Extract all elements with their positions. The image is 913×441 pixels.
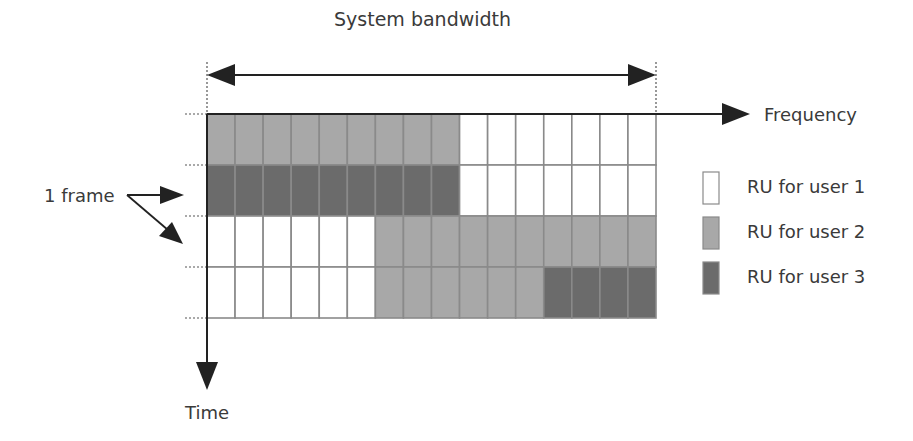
legend-swatches bbox=[703, 172, 719, 294]
ru-cell-user2 bbox=[432, 267, 460, 318]
ru-cell-user2 bbox=[572, 216, 600, 267]
ru-cell-user1 bbox=[460, 114, 488, 165]
ru-cell-user1 bbox=[319, 216, 347, 267]
ru-cell-user3 bbox=[403, 165, 431, 216]
ru-cell-user2 bbox=[235, 114, 263, 165]
ru-cell-user3 bbox=[544, 267, 572, 318]
ru-cell-user2 bbox=[516, 267, 544, 318]
ru-cell-user1 bbox=[347, 267, 375, 318]
ru-cell-user2 bbox=[600, 216, 628, 267]
frame-label: 1 frame bbox=[44, 185, 115, 206]
ru-cell-user3 bbox=[207, 165, 235, 216]
ru-cell-user1 bbox=[291, 216, 319, 267]
ru-cell-user1 bbox=[460, 165, 488, 216]
ru-cell-user1 bbox=[235, 216, 263, 267]
ru-cell-user2 bbox=[375, 114, 403, 165]
ru-cell-user3 bbox=[628, 267, 656, 318]
ru-cell-user1 bbox=[572, 114, 600, 165]
ru-cell-user2 bbox=[403, 216, 431, 267]
ru-cell-user2 bbox=[263, 114, 291, 165]
ru-cell-user2 bbox=[516, 216, 544, 267]
ru-cell-user1 bbox=[628, 114, 656, 165]
legend-swatch-user1 bbox=[703, 172, 719, 204]
ru-cell-user3 bbox=[375, 165, 403, 216]
ru-cell-user1 bbox=[544, 114, 572, 165]
ru-cell-user2 bbox=[460, 267, 488, 318]
ru-cell-user3 bbox=[319, 165, 347, 216]
ru-cell-user2 bbox=[628, 216, 656, 267]
ru-cell-user2 bbox=[319, 114, 347, 165]
diagram-title: System bandwidth bbox=[334, 8, 511, 30]
legend-label-user3: RU for user 3 bbox=[747, 266, 865, 287]
legend-label-user2: RU for user 2 bbox=[747, 221, 865, 242]
ru-cell-user2 bbox=[432, 114, 460, 165]
legend-label-user1: RU for user 1 bbox=[747, 176, 865, 197]
ru-cell-user3 bbox=[263, 165, 291, 216]
ru-cell-user2 bbox=[403, 114, 431, 165]
ru-cell-user2 bbox=[488, 267, 516, 318]
resource-unit-grid bbox=[207, 114, 656, 318]
ru-cell-user1 bbox=[291, 267, 319, 318]
ru-cell-user2 bbox=[291, 114, 319, 165]
ru-cell-user1 bbox=[600, 165, 628, 216]
ru-cell-user1 bbox=[263, 216, 291, 267]
ru-cell-user1 bbox=[488, 165, 516, 216]
frequency-axis-label: Frequency bbox=[764, 104, 857, 125]
ru-cell-user1 bbox=[235, 267, 263, 318]
ru-cell-user2 bbox=[403, 267, 431, 318]
ru-cell-user2 bbox=[488, 216, 516, 267]
ru-cell-user1 bbox=[207, 216, 235, 267]
ru-cell-user3 bbox=[600, 267, 628, 318]
time-axis-label: Time bbox=[185, 402, 229, 423]
ru-cell-user1 bbox=[347, 216, 375, 267]
ru-cell-user3 bbox=[291, 165, 319, 216]
ru-cell-user2 bbox=[460, 216, 488, 267]
ru-cell-user2 bbox=[544, 216, 572, 267]
ru-cell-user3 bbox=[347, 165, 375, 216]
ru-cell-user1 bbox=[207, 267, 235, 318]
ru-cell-user2 bbox=[375, 216, 403, 267]
legend-swatch-user2 bbox=[703, 217, 719, 249]
ru-cell-user1 bbox=[516, 165, 544, 216]
bandwidth-arrow bbox=[207, 64, 656, 86]
ru-cell-user1 bbox=[628, 165, 656, 216]
ru-cell-user1 bbox=[544, 165, 572, 216]
ru-cell-user1 bbox=[572, 165, 600, 216]
ru-cell-user3 bbox=[235, 165, 263, 216]
bandwidth-bounds bbox=[207, 62, 656, 114]
ru-cell-user3 bbox=[572, 267, 600, 318]
ru-cell-user1 bbox=[319, 267, 347, 318]
ru-cell-user2 bbox=[347, 114, 375, 165]
ru-cell-user1 bbox=[516, 114, 544, 165]
ru-cell-user1 bbox=[263, 267, 291, 318]
frame-arrows bbox=[127, 186, 184, 244]
ru-cell-user1 bbox=[600, 114, 628, 165]
frame-boundary-ticks bbox=[185, 114, 207, 318]
legend-swatch-user3 bbox=[703, 262, 719, 294]
ru-cell-user3 bbox=[432, 165, 460, 216]
ru-cell-user2 bbox=[375, 267, 403, 318]
ru-cell-user1 bbox=[488, 114, 516, 165]
ru-cell-user2 bbox=[432, 216, 460, 267]
ru-cell-user2 bbox=[207, 114, 235, 165]
